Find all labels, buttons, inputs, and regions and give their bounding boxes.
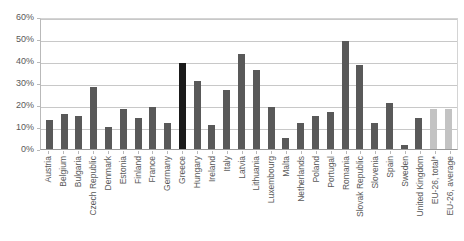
x-tick-mark [108,151,109,154]
y-tick-label: 60% [16,13,34,22]
bar-slot [308,19,323,149]
x-tick: France [145,151,160,241]
x-tick-label: Slovenia [371,156,380,189]
bar[interactable] [297,123,304,149]
x-tick-mark [420,151,421,154]
x-tick-label: Italy [222,156,231,172]
x-tick-label: Romania [341,156,350,190]
x-tick-label: Hungary [193,156,202,188]
y-tick-label: 0% [21,145,34,154]
bar[interactable] [268,107,275,149]
x-tick-label: Bulgaria [74,156,83,187]
y-tick-label: 30% [16,79,34,88]
bar[interactable] [386,103,393,149]
x-tick-mark [405,151,406,154]
x-tick-label: Slovak Republic [356,156,365,217]
x-tick: Italy [219,151,234,241]
bar-slot [86,19,101,149]
bar[interactable] [327,112,334,149]
x-tick-mark [182,151,183,154]
bar[interactable] [430,109,437,149]
bar[interactable] [75,116,82,149]
bar[interactable] [312,116,319,149]
bar-slot [249,19,264,149]
bar[interactable] [164,123,171,149]
bar[interactable] [90,87,97,149]
bar-slot [175,19,190,149]
bar-slot [397,19,412,149]
y-tick-label: 40% [16,57,34,66]
x-tick-label: France [148,156,157,182]
bar[interactable] [342,41,349,149]
x-tick-mark [167,151,168,154]
bar[interactable] [105,127,112,149]
x-tick-label: Germany [163,156,172,191]
bar[interactable] [120,109,127,149]
x-tick-label: Estonia [118,156,127,184]
x-tick: Slovak Republic [353,151,368,241]
bar[interactable] [238,54,245,149]
bar[interactable] [179,63,186,149]
x-tick-mark [375,151,376,154]
x-tick-mark [197,151,198,154]
x-tick-label: Malta [282,156,291,177]
bar-slot [234,19,249,149]
bar[interactable] [149,107,156,149]
bar[interactable] [356,65,363,149]
bar-slot [205,19,220,149]
x-tick: Denmark [100,151,115,241]
x-tick: Estonia [115,151,130,241]
x-tick-label: United Kingdom [415,156,424,216]
bar-slot [72,19,87,149]
x-tick-label: Czech Republic [89,156,98,216]
bar[interactable] [135,118,142,149]
x-tick-label: Poland [311,156,320,182]
x-tick-mark [123,151,124,154]
bar[interactable] [282,138,289,149]
x-tick: Sweden [398,151,413,241]
x-tick-label: Greece [178,156,187,184]
bar[interactable] [253,70,260,149]
bar-slot [426,19,441,149]
x-tick-label: Latvia [237,156,246,179]
x-tick-label: Denmark [103,156,112,190]
x-tick: Malta [279,151,294,241]
x-tick-mark [256,151,257,154]
bar-slot [42,19,57,149]
x-tick: Netherlands [294,151,309,241]
bar[interactable] [208,125,215,149]
x-tick: Belgium [56,151,71,241]
bar[interactable] [194,81,201,149]
bar[interactable] [415,118,422,149]
x-tick-label: EU-26, total* [430,156,439,204]
x-tick-mark [286,151,287,154]
x-tick-label: Sweden [401,156,410,187]
bar-slot [323,19,338,149]
bar[interactable] [401,145,408,149]
bar-slot [382,19,397,149]
bar-slot [441,19,456,149]
bar-slot [264,19,279,149]
x-tick: Finland [130,151,145,241]
y-axis: 60%50%40%30%20%10%0% [0,0,38,160]
bars-layer [41,19,457,149]
x-tick-label: Netherlands [297,156,306,202]
x-tick: Greece [175,151,190,241]
x-tick: Slovenia [368,151,383,241]
bar[interactable] [46,120,53,149]
x-tick-label: EU-26, average [445,156,454,216]
x-tick: Lithuania [249,151,264,241]
x-tick: Germany [160,151,175,241]
x-tick-label: Luxembourg [267,156,276,203]
bar[interactable] [223,90,230,149]
bar[interactable] [61,114,68,149]
x-tick-mark [63,151,64,154]
x-tick-mark [78,151,79,154]
bar[interactable] [371,123,378,149]
x-tick-mark [301,151,302,154]
bar[interactable] [445,109,452,149]
x-tick-mark [271,151,272,154]
x-tick-label: Ireland [207,156,216,182]
bar-slot [101,19,116,149]
y-tick-label: 20% [16,101,34,110]
